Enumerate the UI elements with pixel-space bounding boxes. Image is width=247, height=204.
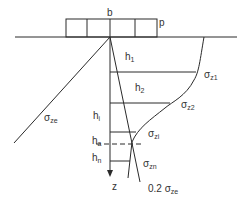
load-label: p	[159, 17, 165, 28]
depth-axis-arrow-icon	[107, 170, 113, 177]
stress-label-zi: σzi	[148, 128, 160, 140]
layer-label-h1: h1	[125, 51, 135, 63]
layer-label-hi: hi	[93, 110, 101, 122]
stress-label-zn: σzn	[143, 158, 157, 170]
self-weight-stress-label: σze	[44, 112, 58, 124]
stress-label-z1: σz1	[204, 69, 218, 81]
width-label: b	[107, 7, 113, 18]
footing	[66, 19, 157, 37]
stress-distribution-diagram: b p z h1 h2 hi ha hn σz1 σz2 σzi σzn σze…	[0, 0, 247, 204]
depth-label: z	[112, 181, 117, 192]
stress-label-z2: σz2	[181, 99, 195, 111]
self-weight-stress-line	[14, 37, 110, 143]
layer-label-ha: ha	[92, 135, 102, 147]
layer-label-hn: hn	[92, 152, 102, 164]
layer-label-h2: h2	[135, 82, 145, 94]
limit-stress-label: 0.2 σze	[148, 183, 178, 195]
